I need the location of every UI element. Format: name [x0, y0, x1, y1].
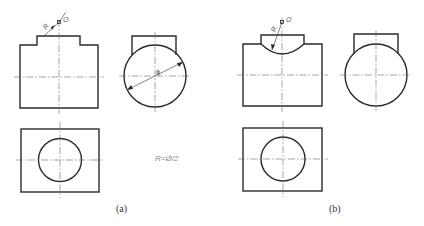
caption-a: (a)	[116, 203, 127, 215]
side-view-a: ϕ	[119, 32, 191, 112]
front-view-b: R O	[237, 16, 328, 112]
arrowhead-icon	[127, 85, 133, 90]
top-view-b	[238, 121, 328, 197]
arrowhead-icon	[271, 44, 275, 50]
top-view-a	[16, 122, 104, 198]
front-view-a: R O	[14, 12, 104, 114]
caption-b: (b)	[329, 203, 341, 215]
front-outline-b	[243, 35, 322, 106]
arc-cut-b	[261, 44, 304, 54]
center-point-label: O	[286, 16, 292, 23]
radius-formula-note: R=Ø/2	[155, 154, 179, 163]
side-view-b	[340, 30, 412, 111]
engineering-drawing: R O ϕ R=Ø/2 (a)	[0, 0, 424, 226]
radius-label: R	[270, 26, 278, 33]
panel-a: R O ϕ R=Ø/2 (a)	[14, 12, 191, 215]
center-point-label: O	[63, 16, 69, 23]
radius-label: R	[41, 22, 50, 30]
arrowhead-icon	[177, 62, 183, 67]
panel-b: R O (b)	[237, 16, 412, 215]
